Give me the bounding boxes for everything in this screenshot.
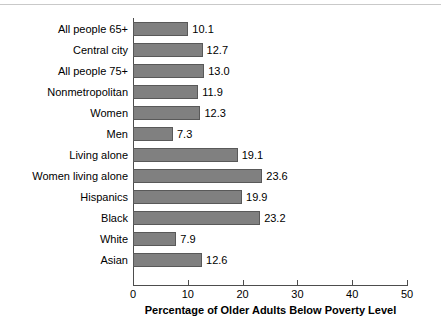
bar-value-label: 23.6 <box>266 169 287 183</box>
x-axis-tick <box>352 280 353 286</box>
category-label: Asian <box>0 253 128 267</box>
bar-value-label: 10.1 <box>192 22 213 36</box>
bar <box>133 127 173 141</box>
x-axis-tick-label: 0 <box>113 288 153 300</box>
category-label: Hispanics <box>0 190 128 204</box>
category-label: All people 75+ <box>0 64 128 78</box>
bar-chart-figure: All people 65+10.1Central city12.7All pe… <box>0 0 441 323</box>
x-axis-tick <box>297 280 298 286</box>
bar-row: Black23.2 <box>0 211 441 232</box>
category-label: Central city <box>0 43 128 57</box>
bar-row: Women12.3 <box>0 106 441 127</box>
bar-row: All people 65+10.1 <box>0 22 441 43</box>
category-label: Nonmetropolitan <box>0 85 128 99</box>
bar-value-label: 13.0 <box>208 64 229 78</box>
bar-row: Nonmetropolitan11.9 <box>0 85 441 106</box>
x-axis-tick-label: 40 <box>332 288 372 300</box>
x-axis-title: Percentage of Older Adults Below Poverty… <box>133 304 408 316</box>
category-label: Women living alone <box>0 169 128 183</box>
category-label: Black <box>0 211 128 225</box>
category-label: Men <box>0 127 128 141</box>
bar <box>133 253 202 267</box>
bar-row: Central city12.7 <box>0 43 441 64</box>
x-axis-tick-label: 50 <box>387 288 427 300</box>
bar <box>133 22 188 36</box>
bar-row: Women living alone23.6 <box>0 169 441 190</box>
bar <box>133 232 176 246</box>
x-axis-tick-label: 30 <box>277 288 317 300</box>
bar <box>133 85 198 99</box>
bar-value-label: 23.2 <box>264 211 285 225</box>
category-label: All people 65+ <box>0 22 128 36</box>
bar-row: White7.9 <box>0 232 441 253</box>
bar <box>133 190 242 204</box>
bar-value-label: 19.1 <box>242 148 263 162</box>
bar-row: Hispanics19.9 <box>0 190 441 211</box>
bar-value-label: 12.7 <box>207 43 228 57</box>
bar-value-label: 7.9 <box>180 232 195 246</box>
bar-row: All people 75+13.0 <box>0 64 441 85</box>
category-label: White <box>0 232 128 246</box>
bar <box>133 64 204 78</box>
bar-value-label: 12.3 <box>204 106 225 120</box>
bar-value-label: 7.3 <box>177 127 192 141</box>
bar <box>133 43 203 57</box>
bar-value-label: 12.6 <box>206 253 227 267</box>
category-label: Living alone <box>0 148 128 162</box>
x-axis-tick <box>188 280 189 286</box>
x-axis-tick-label: 10 <box>168 288 208 300</box>
x-axis-tick <box>407 280 408 286</box>
bar <box>133 106 200 120</box>
bar <box>133 148 238 162</box>
bar <box>133 169 262 183</box>
x-axis-tick <box>243 280 244 286</box>
bar-row: Asian12.6 <box>0 253 441 274</box>
x-axis-tick-label: 20 <box>223 288 263 300</box>
plot-area: All people 65+10.1Central city12.7All pe… <box>0 0 441 323</box>
bar-row: Men7.3 <box>0 127 441 148</box>
bar-value-label: 11.9 <box>202 85 223 99</box>
bar-row: Living alone19.1 <box>0 148 441 169</box>
x-axis-line <box>133 285 408 286</box>
bar-value-label: 19.9 <box>246 190 267 204</box>
x-axis-tick <box>133 280 134 286</box>
bar <box>133 211 260 225</box>
category-label: Women <box>0 106 128 120</box>
